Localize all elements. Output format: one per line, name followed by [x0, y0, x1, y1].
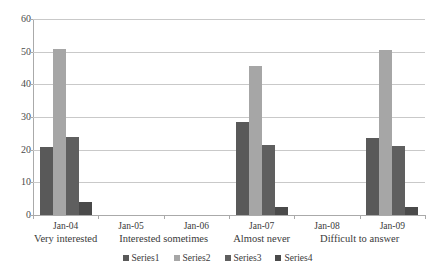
bar: [275, 207, 288, 215]
bar-group: [366, 19, 418, 215]
x-tick-mark: [229, 215, 230, 219]
x-tick-mark: [294, 215, 295, 219]
y-tick-label: 0: [5, 210, 31, 220]
x-tick-mark: [164, 215, 165, 219]
legend-swatch-icon: [275, 255, 281, 261]
bar: [249, 66, 262, 215]
y-tick-label: 50: [5, 47, 31, 57]
legend-item: Series1: [123, 253, 160, 263]
bar: [379, 50, 392, 215]
legend-label: Series2: [183, 253, 211, 263]
bar: [79, 202, 92, 215]
x-tick-mark: [98, 215, 99, 219]
bar: [262, 145, 275, 215]
bar: [405, 207, 418, 215]
bar-group: [301, 19, 353, 215]
x-tick-label: Jan-09: [352, 221, 432, 232]
legend-swatch-icon: [123, 255, 129, 261]
legend-item: Series2: [174, 253, 211, 263]
bar-chart: 0102030405060 Jan-04Jan-05Jan-06Jan-07Ja…: [0, 0, 435, 273]
x-tick-mark: [33, 215, 34, 219]
bar: [366, 138, 379, 215]
legend: Series1Series2Series3Series4: [0, 253, 435, 263]
y-tick-label: 10: [5, 177, 31, 187]
legend-item: Series4: [275, 253, 312, 263]
y-tick-label: 20: [5, 145, 31, 155]
bar-group: [170, 19, 222, 215]
legend-label: Series4: [284, 253, 312, 263]
legend-item: Series3: [225, 253, 262, 263]
x-tick-mark: [360, 215, 361, 219]
x-tick-mark: [425, 215, 426, 219]
legend-swatch-icon: [174, 255, 180, 261]
bar: [53, 49, 66, 215]
legend-label: Series3: [234, 253, 262, 263]
legend-swatch-icon: [225, 255, 231, 261]
bar: [236, 122, 249, 215]
bar: [392, 146, 405, 215]
x-group-label: Interested sometimes: [98, 233, 229, 245]
x-group-label: Very interested: [33, 233, 98, 245]
legend-label: Series1: [132, 253, 160, 263]
y-axis: 0102030405060: [0, 0, 31, 273]
y-tick-label: 30: [5, 112, 31, 122]
y-tick-label: 60: [5, 14, 31, 24]
plot-area: [33, 19, 425, 215]
y-tick-label: 40: [5, 79, 31, 89]
bar-group: [105, 19, 157, 215]
bar-group: [236, 19, 288, 215]
x-group-label: Difficult to answer: [294, 233, 425, 245]
bar: [40, 147, 53, 215]
bar-group: [40, 19, 92, 215]
bar: [66, 137, 79, 215]
x-group-label: Almost never: [229, 233, 294, 245]
